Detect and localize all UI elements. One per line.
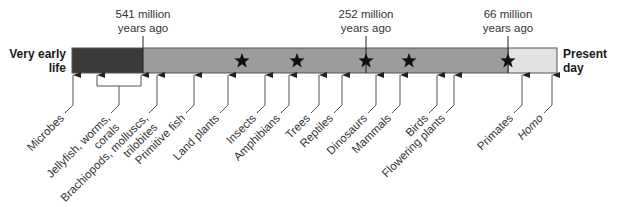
event-leader-diagonal	[111, 105, 119, 113]
event-leader-diagonal	[446, 105, 454, 113]
event-leader-diagonal	[257, 105, 265, 113]
event-leader-diagonal	[149, 105, 157, 113]
event-leader-diagonal	[429, 105, 437, 113]
event-leader-diagonal	[514, 105, 522, 113]
event-label-line: Primates	[475, 112, 516, 153]
event-label: Microbes	[25, 112, 67, 154]
event-leader-diagonal	[368, 105, 376, 113]
event-leader-diagonal	[544, 105, 552, 113]
event-leader-diagonal	[311, 105, 319, 113]
event-leader-diagonal	[334, 105, 342, 113]
event-label: Homo	[515, 111, 546, 142]
bar-segment-precambrian	[72, 48, 143, 73]
timeline-graphic: MicrobesJellyfish, worms,coralsBrachiopo…	[0, 0, 617, 207]
event-leader-diagonal	[220, 105, 228, 113]
event-leader-diagonal	[65, 105, 73, 113]
event-label: Primates	[475, 112, 516, 153]
event-leader-diagonal	[186, 105, 194, 113]
event-label-line: Microbes	[25, 112, 67, 154]
bar-segment-phanerozoic-pre-66	[143, 48, 509, 73]
timeline-diagram: Very early life Present day 541 milliony…	[0, 0, 617, 207]
event-leader-diagonal	[392, 105, 400, 113]
bar-segment-cenozoic	[509, 48, 557, 73]
event-leader-diagonal	[281, 105, 289, 113]
event-label-line: Homo	[515, 111, 546, 142]
